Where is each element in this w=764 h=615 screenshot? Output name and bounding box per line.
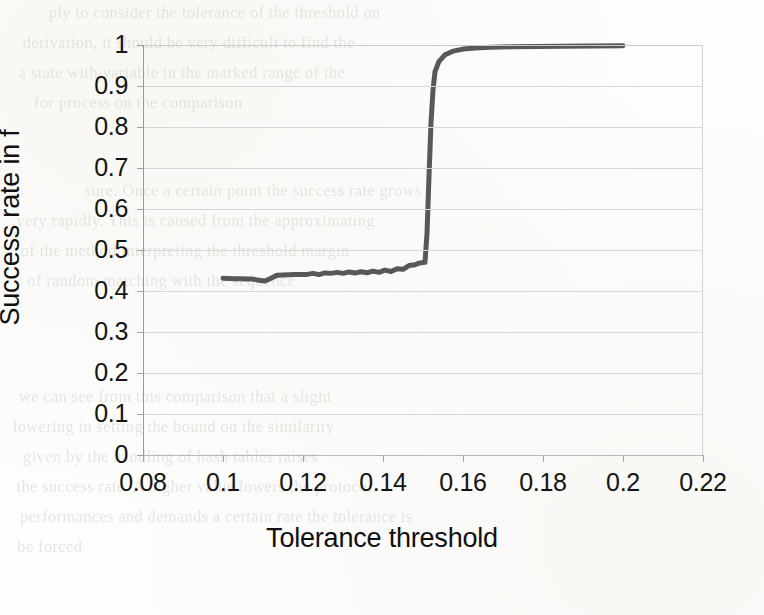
y-tick-mark: [137, 373, 143, 374]
y-tick-label: 0.5: [0, 237, 128, 262]
y-tick-mark: [137, 414, 143, 415]
gridline-y: [143, 250, 703, 251]
y-tick-label: 0.2: [0, 360, 128, 385]
gridline-y: [143, 209, 703, 210]
y-tick-mark: [137, 250, 143, 251]
y-tick-label: 0.6: [0, 196, 128, 221]
y-tick-mark: [137, 86, 143, 87]
y-tick-label: 1: [0, 32, 128, 57]
x-tick-mark: [383, 455, 384, 462]
y-tick-mark: [137, 291, 143, 292]
gridline-y: [143, 127, 703, 128]
x-tick-mark: [143, 455, 144, 462]
gridline-y: [143, 455, 703, 456]
x-axis-title: Tolerance threshold: [0, 523, 764, 554]
y-axis-line: [143, 45, 144, 455]
y-tick-label: 0: [0, 442, 128, 467]
y-tick-mark: [137, 127, 143, 128]
x-tick-mark: [223, 455, 224, 462]
y-tick-label: 0.3: [0, 319, 128, 344]
y-tick-label: 0.8: [0, 114, 128, 139]
y-tick-mark: [137, 209, 143, 210]
y-tick-mark: [137, 332, 143, 333]
gridline-y: [143, 45, 703, 46]
y-tick-label: 0.4: [0, 278, 128, 303]
data-line: [223, 46, 623, 281]
x-tick-mark: [463, 455, 464, 462]
gridline-y: [143, 86, 703, 87]
plot-area: [143, 45, 703, 455]
y-tick-mark: [137, 168, 143, 169]
chart-figure: Success rate in f Tolerance threshold 00…: [0, 0, 764, 615]
x-tick-mark: [703, 455, 704, 462]
y-tick-mark: [137, 45, 143, 46]
x-tick-mark: [303, 455, 304, 462]
x-tick-mark: [623, 455, 624, 462]
gridline-y: [143, 414, 703, 415]
y-tick-label: 0.1: [0, 401, 128, 426]
gridline-y: [143, 291, 703, 292]
x-tick-mark: [543, 455, 544, 462]
gridline-y: [143, 332, 703, 333]
y-tick-label: 0.7: [0, 155, 128, 180]
gridline-y: [143, 373, 703, 374]
y-tick-label: 0.9: [0, 73, 128, 98]
gridline-y: [143, 168, 703, 169]
x-tick-label: 0.22: [648, 470, 758, 495]
